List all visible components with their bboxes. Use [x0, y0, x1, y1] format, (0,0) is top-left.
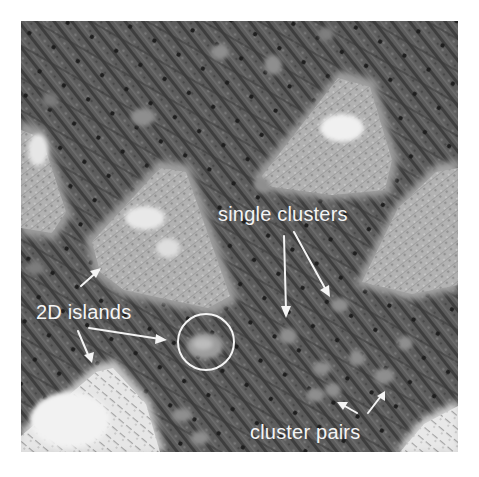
2d-islands-label: 2D islands — [36, 302, 131, 322]
stm-image — [21, 21, 458, 452]
stm-figure: single clusters 2D islands cluster pairs — [0, 0, 479, 477]
single-clusters-label: single clusters — [218, 204, 348, 224]
cluster-pairs-label: cluster pairs — [250, 422, 360, 442]
